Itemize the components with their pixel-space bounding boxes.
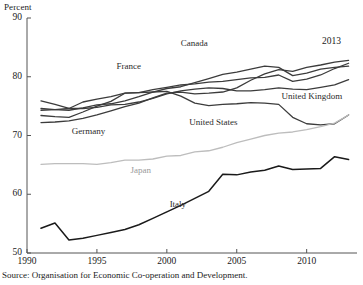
series-label-italy: Italy bbox=[170, 199, 187, 209]
series-label-united-kingdom: United Kingdom bbox=[281, 91, 342, 101]
x-tick-label-2005: 2005 bbox=[217, 256, 257, 266]
x-tick-label-1990: 1990 bbox=[7, 256, 47, 266]
series-label-germany: Germany bbox=[72, 126, 106, 136]
series-label-canada: Canada bbox=[181, 38, 208, 48]
x-tick-label-1995: 1995 bbox=[77, 256, 117, 266]
series-label-france: France bbox=[116, 61, 141, 71]
series-line-italy bbox=[41, 157, 349, 240]
y-tick-label-70: 70 bbox=[0, 130, 22, 140]
series-label-united-states: United States bbox=[189, 117, 237, 127]
y-tick-label-90: 90 bbox=[0, 12, 22, 22]
y-tick-label-60: 60 bbox=[0, 188, 22, 198]
x-tick-label-2000: 2000 bbox=[147, 256, 187, 266]
y-tick-label-80: 80 bbox=[0, 71, 22, 81]
x-tick-label-2010: 2010 bbox=[287, 256, 327, 266]
series-label-japan: Japan bbox=[130, 165, 151, 175]
employment-rate-line-chart: Percent 2013 5060708090 1990199520002005… bbox=[0, 0, 363, 285]
source-note: Source: Organisation for Economic Co-ope… bbox=[2, 270, 248, 280]
